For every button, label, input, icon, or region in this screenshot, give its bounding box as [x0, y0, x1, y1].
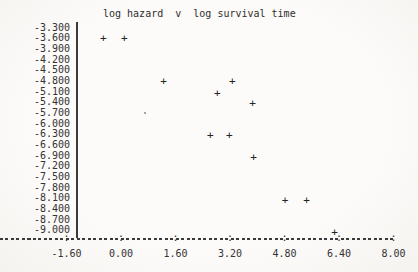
data-point-marker: +: [160, 75, 167, 86]
data-point-marker: +: [303, 195, 310, 206]
x-axis-tick-colon: :: [63, 233, 69, 243]
data-point-marker: +: [250, 152, 257, 163]
data-point-marker: +: [121, 33, 128, 44]
x-tick-label: 1.60: [163, 248, 187, 259]
y-tick-label: -9.000: [0, 225, 70, 235]
y-tick-label: -8.400: [0, 204, 70, 214]
y-axis-line: [76, 22, 78, 238]
x-axis-tick-colon: :: [172, 233, 178, 243]
y-tick-label: -4.500: [0, 65, 70, 75]
y-tick-label: -4.800: [0, 76, 70, 86]
y-tick-label: -7.200: [0, 161, 70, 171]
y-tick-label: -8.100: [0, 193, 70, 203]
chart-title: log hazard v log survival time: [103, 8, 296, 20]
x-tick-label: 6.40: [327, 248, 351, 259]
x-tick-label: 8.00: [381, 248, 405, 259]
y-tick-label: -7.800: [0, 183, 70, 193]
y-tick-label: -8.700: [0, 215, 70, 225]
y-tick-label: -6.300: [0, 129, 70, 139]
x-tick-label: 0.00: [109, 248, 133, 259]
y-tick-label: -6.600: [0, 140, 70, 150]
y-tick-label: -5.400: [0, 97, 70, 107]
y-tick-label: -7.500: [0, 172, 70, 182]
data-point-marker: +: [331, 226, 338, 237]
data-point-marker: +: [229, 75, 236, 86]
y-tick-label: -6.000: [0, 119, 70, 129]
y-tick-label: -4.200: [0, 55, 70, 65]
y-tick-label: -5.700: [0, 108, 70, 118]
y-tick-label: -3.900: [0, 44, 70, 54]
lineprinter-scatter-plot: log hazard v log survival time -3.300-3.…: [0, 0, 418, 272]
data-point-marker: [144, 112, 146, 114]
x-axis-tick-colon: :: [227, 233, 233, 243]
data-point-marker: +: [207, 130, 214, 141]
x-tick-label: 4.80: [272, 248, 296, 259]
y-tick-label: -5.100: [0, 87, 70, 97]
y-tick-label: -3.300: [0, 23, 70, 33]
data-point-marker: +: [100, 33, 107, 44]
data-point-marker: +: [249, 98, 256, 109]
data-point-marker: +: [226, 130, 233, 141]
x-tick-label: -1.60: [51, 248, 81, 259]
y-tick-label: -6.900: [0, 151, 70, 161]
x-axis-tick-colon: :: [281, 233, 287, 243]
data-point-marker: +: [282, 195, 289, 206]
y-tick-label: -3.600: [0, 33, 70, 43]
x-axis-tick-colon: :: [118, 233, 124, 243]
x-axis-tick-colon: :: [390, 233, 396, 243]
data-point-marker: +: [214, 88, 221, 99]
x-tick-label: 3.20: [218, 248, 242, 259]
